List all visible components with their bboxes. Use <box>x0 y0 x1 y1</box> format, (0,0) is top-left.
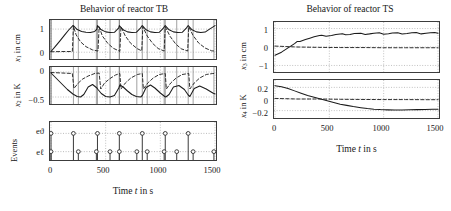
ytick-x2-0: 0 <box>16 66 44 76</box>
plot-area-x2 <box>49 66 217 105</box>
ytick-x4-02: 0.2 <box>236 84 268 94</box>
xtick-right-1500: 1500 <box>421 123 449 133</box>
series-x3-dashed <box>275 46 438 48</box>
axis-label-x1: x1 in cm <box>12 34 22 62</box>
time-unit-right: in s <box>363 144 376 154</box>
series-x3-solid <box>275 33 438 56</box>
series-x4-solid <box>275 86 438 110</box>
time-word-left: Time <box>113 186 133 196</box>
plot-area-x3 <box>273 21 440 73</box>
ytick-x4-neg02: −0.2 <box>236 108 268 118</box>
chart-svg-x4 <box>274 80 439 118</box>
ytick-x3-0: 0 <box>244 43 268 53</box>
ytick-x1-0: 0 <box>24 48 44 58</box>
reactor-tb-group: Behavior of reactor TB x1 in cm 1 0 x2 i… <box>0 0 228 211</box>
axis-label-time-left: Time t in s <box>49 186 217 196</box>
xtick-left-500: 500 <box>91 165 115 175</box>
time-var-right: t <box>358 144 361 154</box>
time-word-right: Time <box>336 144 356 154</box>
event-row-label-e-l: eℓ <box>22 147 44 157</box>
xtick-right-1000: 1000 <box>367 123 395 133</box>
ytick-x1-1: 1 <box>24 24 44 34</box>
chart-svg-events <box>50 122 216 160</box>
figure-root: Behavior of reactor TB x1 in cm 1 0 x2 i… <box>0 0 451 211</box>
plot-area-events <box>49 121 217 161</box>
time-var-left: t <box>135 186 138 196</box>
chart-svg-x2 <box>50 67 216 104</box>
series-x4-dashed <box>275 98 438 99</box>
reactor-ts-group: Behavior of reactor TS x3 in cm 1 0 −1 x… <box>228 0 451 211</box>
ytick-x3-1: 1 <box>244 25 268 35</box>
time-unit-left: in s <box>140 186 153 196</box>
ytick-x2-neg05: −0.5 <box>16 95 44 105</box>
ytick-x3-neg1: −1 <box>244 61 268 71</box>
series-x1-dashed <box>51 26 215 51</box>
plot-area-x1 <box>49 19 217 60</box>
chart-svg-x3 <box>274 22 439 72</box>
plot-area-x4 <box>273 79 440 119</box>
xtick-right-500: 500 <box>315 123 339 133</box>
chart-svg-x1 <box>50 20 216 59</box>
series-x2-dashed <box>51 73 215 90</box>
event-row-label-e-theta: eϑ <box>22 126 44 136</box>
xtick-left-0: 0 <box>40 165 60 175</box>
ytick-x4-0: 0 <box>236 96 268 106</box>
axis-label-events: Events <box>9 139 19 162</box>
axis-label-time-right: Time t in s <box>273 144 440 154</box>
xtick-left-1500: 1500 <box>198 165 226 175</box>
left-plot-title: Behavior of reactor TB <box>24 4 224 14</box>
right-plot-title: Behavior of reactor TS <box>250 4 450 14</box>
xtick-left-1000: 1000 <box>144 165 172 175</box>
xtick-right-0: 0 <box>264 123 284 133</box>
